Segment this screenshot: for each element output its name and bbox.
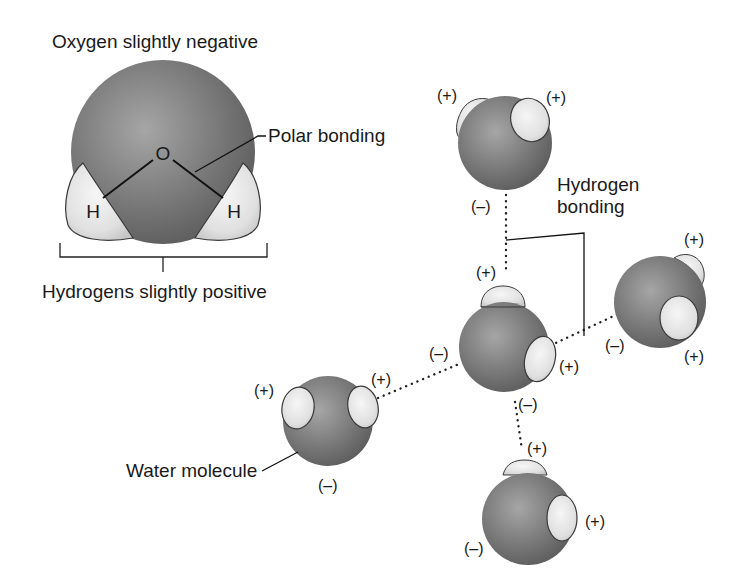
charge-positive: (+)	[437, 87, 457, 104]
charge-positive: (+)	[371, 371, 391, 388]
water-molecule-bottom: (+) (+) (–)	[464, 440, 605, 565]
water-molecule-top: (+) (+) (–)	[437, 87, 566, 215]
hydrogen-symbol-right: H	[227, 201, 241, 222]
charge-negative: (–)	[471, 198, 491, 215]
charge-negative: (–)	[429, 345, 449, 362]
charge-negative: (–)	[464, 540, 484, 557]
water-molecule-left: (+) (+) (–) Water molecule	[126, 371, 391, 494]
charge-positive: (+)	[559, 358, 579, 375]
charge-positive: (+)	[684, 348, 704, 365]
hydrogen-bonding-label-line1: Hydrogen	[557, 174, 639, 195]
hydrogen-atom	[547, 495, 577, 541]
hydrogens-bracket	[60, 243, 267, 257]
charge-positive: (+)	[254, 382, 274, 399]
polar-bonding-label: Polar bonding	[268, 125, 385, 146]
water-hydrogen-bonding-diagram: Oxygen slightly negative O H H Polar bon…	[0, 0, 741, 583]
charge-negative: (–)	[518, 396, 538, 413]
oxygen-symbol: O	[156, 143, 171, 164]
large-water-molecule: Oxygen slightly negative O H H Polar bon…	[42, 31, 385, 302]
hydrogen-bonding-label-line2: bonding	[557, 196, 625, 217]
charge-positive: (+)	[527, 440, 547, 457]
charge-positive: (+)	[585, 513, 605, 530]
oxygen-slightly-negative-label: Oxygen slightly negative	[52, 31, 258, 52]
charge-positive: (+)	[546, 89, 566, 106]
hydrogen-atom	[503, 460, 547, 475]
hydrogen-symbol-left: H	[86, 201, 100, 222]
water-molecule-right: (+) (–) (+)	[605, 231, 706, 365]
charge-negative: (–)	[318, 477, 338, 494]
charge-negative: (–)	[605, 337, 625, 354]
hydrogens-slightly-positive-label: Hydrogens slightly positive	[42, 281, 267, 302]
water-molecule-center: (+) (–) (+) (–)	[429, 264, 579, 413]
hydrogen-atom	[660, 296, 698, 340]
charge-positive: (+)	[476, 264, 496, 281]
charge-positive: (+)	[684, 231, 704, 248]
water-molecule-label: Water molecule	[126, 460, 257, 481]
water-molecule-leader-line	[262, 452, 298, 471]
